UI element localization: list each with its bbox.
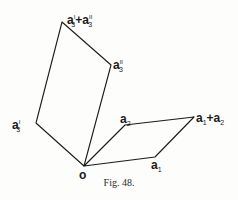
parallelogram-diagram [0, 0, 238, 200]
label-a3-double-prime: aII3 [113, 59, 123, 73]
figure-48: aI3 aI3+aII3 aII3 a2 a1+a2 a1 o Fig. 48. [0, 0, 238, 200]
parallelogram-a1-a2 [84, 117, 194, 166]
label-a2: a2 [120, 113, 131, 127]
parallelogram-a3 [36, 22, 111, 166]
label-a3-prime: aI3 [12, 119, 20, 133]
figure-caption: Fig. 48. [0, 177, 238, 188]
label-a3-sum: aI3+aII3 [67, 14, 92, 28]
label-a1-plus-a2: a1+a2 [196, 112, 224, 126]
label-a1: a1 [151, 159, 162, 173]
